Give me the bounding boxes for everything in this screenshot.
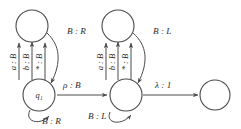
edge-label-left-return-br: B : R [67, 26, 86, 36]
diagram-canvas: q₁ a : B b : B * : B B : R B : R ρ : B a… [0, 0, 241, 129]
state-label-q1: q₁ [35, 91, 42, 100]
edge-label-q1-selfloop-br: B : R [42, 116, 61, 126]
edge-label-left-star-b: * : B [34, 53, 44, 70]
edge-topleft-to-q1-return [47, 33, 58, 83]
edge-label-rho-b: ρ : B [62, 80, 81, 90]
edge-middle-self-loop [109, 112, 131, 122]
edge-label-middle-selfloop-bl: B : L [88, 111, 106, 121]
edge-label-left-b-b: b : B [21, 53, 31, 70]
state-diagram-container: q₁ a : B b : B * : B B : R B : R ρ : B a… [0, 0, 241, 129]
edge-label-right-star-b: * : B [120, 53, 130, 70]
state-top-left[interactable] [16, 10, 48, 42]
state-middle[interactable] [110, 79, 142, 111]
state-final[interactable] [200, 80, 230, 110]
edge-label-right-a-b: a : B [95, 53, 105, 70]
edge-label-right-return-bl: B : L [153, 26, 171, 36]
edge-topright-to-middle-return [133, 33, 145, 83]
edge-label-left-a-b: a : B [8, 53, 18, 70]
state-top-right[interactable] [102, 10, 134, 42]
edge-label-right-b-b: b : B [107, 53, 117, 70]
edge-label-lambda-1: λ : 1 [154, 80, 171, 90]
